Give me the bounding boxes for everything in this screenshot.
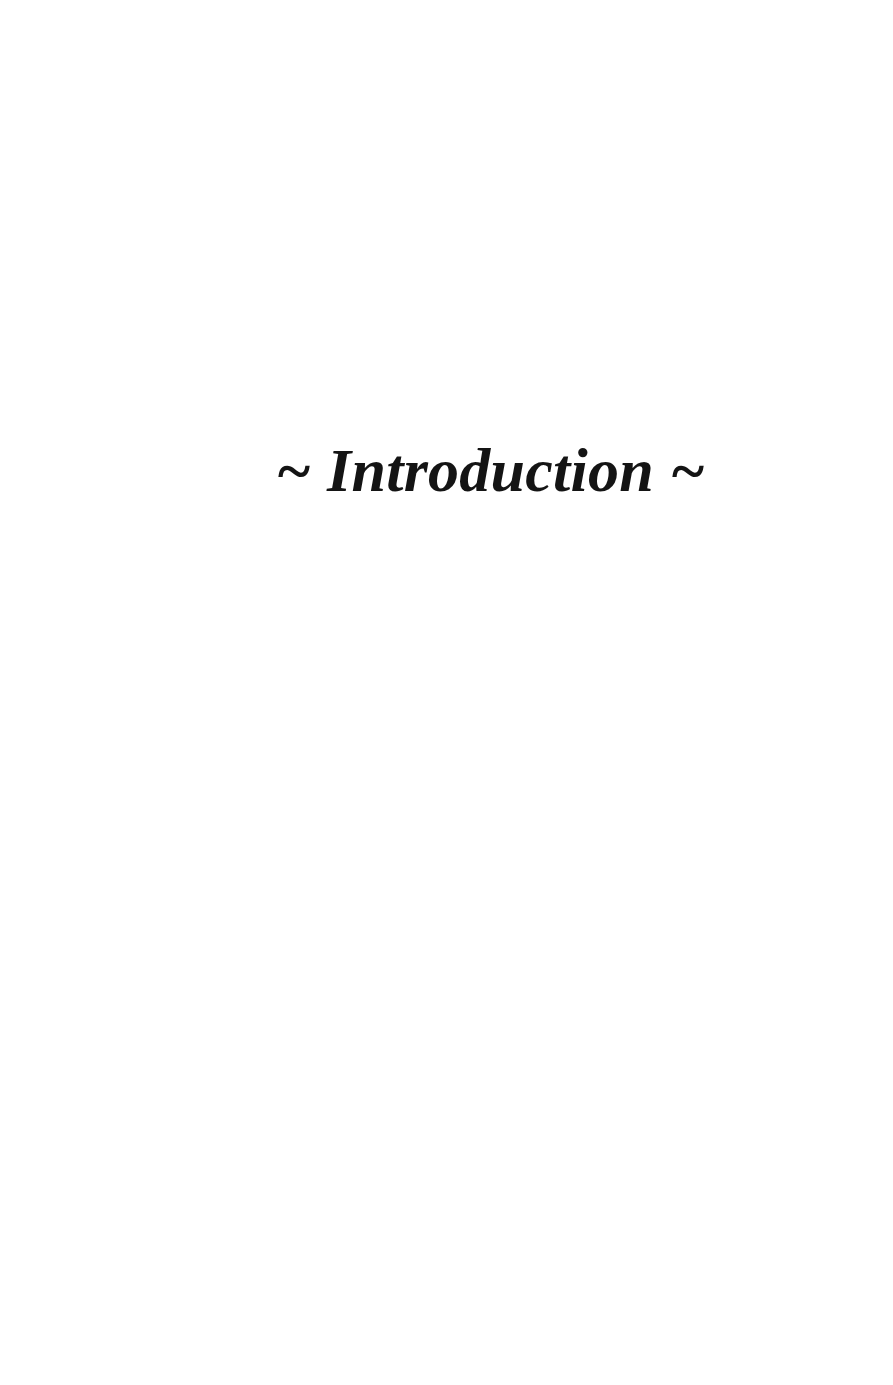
section-title-heading: ~ Introduction ~	[276, 439, 706, 501]
page-blank-area	[0, 543, 893, 1385]
section-divider-block: ~ Introduction ~	[0, 0, 893, 543]
document-page: ~ Introduction ~	[0, 0, 893, 1385]
